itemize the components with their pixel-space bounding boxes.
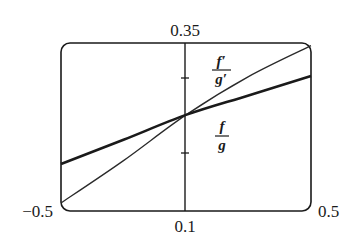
y-min-label: 0.1 [174, 217, 195, 236]
label-denominator: g [217, 137, 226, 153]
label-denominator: g′ [214, 71, 227, 87]
x-min-label: −0.5 [22, 202, 53, 221]
x-max-label: 0.5 [318, 202, 339, 221]
plot-frame [61, 43, 311, 211]
label-f-prime-over-g-prime: f′ g′ [212, 53, 231, 87]
y-max-label: 0.35 [170, 21, 200, 40]
series-f-over-g [61, 76, 311, 164]
label-numerator: f′ [216, 53, 225, 69]
label-f-over-g: f g [215, 118, 229, 153]
label-numerator: f [220, 118, 227, 134]
series-f-prime-over-g-prime [61, 46, 311, 203]
chart: 0.35 0.1 −0.5 0.5 f′ g′ f g [0, 0, 350, 246]
